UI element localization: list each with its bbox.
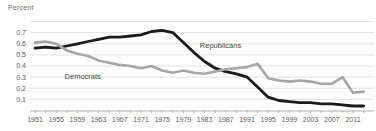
x-tick-label: 1955: [48, 116, 64, 123]
x-tick-label: 1971: [133, 116, 149, 123]
x-tick-label: 2003: [303, 116, 319, 123]
y-tick-label: 0.5: [16, 51, 26, 58]
y-tick-label: 0.4: [16, 62, 26, 69]
x-tick-label: 1983: [197, 116, 213, 123]
x-tick-label: 1963: [91, 116, 107, 123]
y-tick-label: 0.7: [16, 29, 26, 36]
x-tick-label: 1979: [176, 116, 192, 123]
x-tick-label: 1959: [70, 116, 86, 123]
y-tick-label: 0.2: [16, 85, 26, 92]
y-tick-label: 0.3: [16, 74, 26, 81]
plot-area: 0.10.20.30.40.50.60.71951195519591963196…: [0, 0, 376, 131]
line-chart: Percent 0.10.20.30.40.50.60.719511955195…: [0, 0, 376, 131]
x-tick-label: 1987: [218, 116, 234, 123]
x-tick-label: 2011: [345, 116, 360, 123]
y-tick-label: 0.1: [16, 96, 26, 103]
x-tick-label: 2007: [324, 116, 340, 123]
x-tick-label: 1991: [239, 116, 255, 123]
x-tick-label: 1967: [112, 116, 128, 123]
series-label-republicans: Republicans: [200, 41, 242, 50]
x-tick-label: 1951: [27, 116, 43, 123]
x-tick-label: 1999: [282, 116, 298, 123]
x-tick-label: 1995: [260, 116, 276, 123]
x-tick-label: 1975: [154, 116, 170, 123]
y-tick-label: 0.6: [16, 40, 26, 47]
series-label-democrats: Democrats: [65, 72, 102, 81]
